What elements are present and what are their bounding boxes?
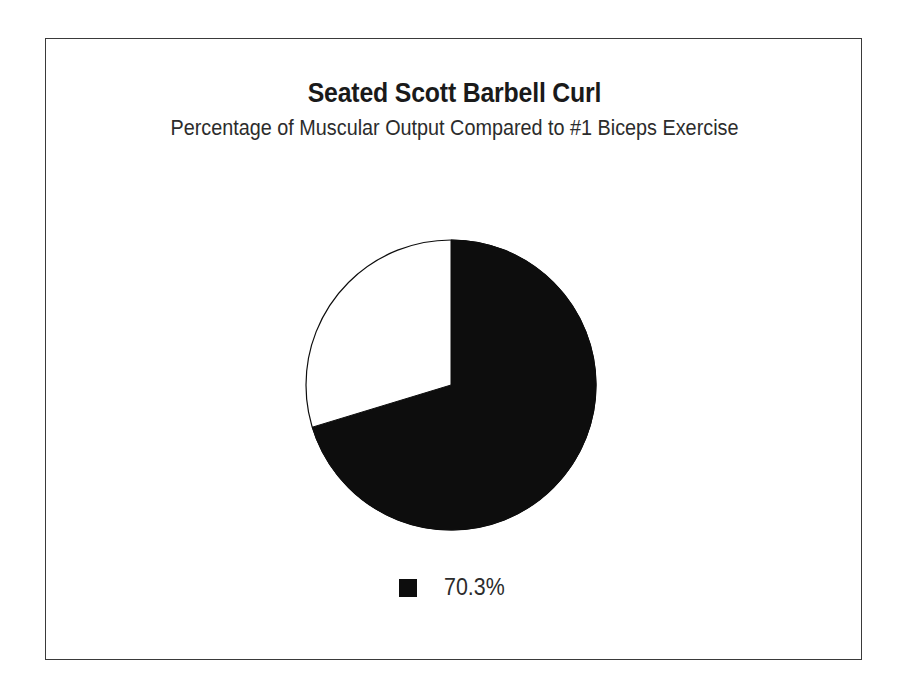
title-block: Seated Scott Barbell Curl Percentage of … <box>46 79 863 141</box>
chart-title: Seated Scott Barbell Curl <box>79 79 831 107</box>
legend-item-label: 70.3% <box>444 574 505 601</box>
pie-chart <box>305 239 597 531</box>
legend-swatch-icon <box>399 579 417 597</box>
pie-chart-svg <box>305 239 597 531</box>
chart-legend: 70.3% <box>46 574 863 601</box>
legend-item[interactable]: 70.3% <box>399 574 509 601</box>
chart-frame: Seated Scott Barbell Curl Percentage of … <box>45 38 862 660</box>
chart-subtitle: Percentage of Muscular Output Compared t… <box>87 116 822 140</box>
